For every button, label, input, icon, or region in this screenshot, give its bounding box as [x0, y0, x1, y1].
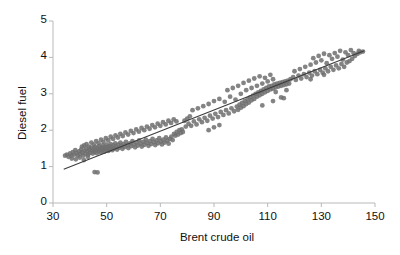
scatter-point [216, 115, 221, 120]
scatter-point [241, 80, 246, 85]
scatter-point [326, 69, 331, 74]
scatter-point [174, 119, 179, 124]
scatter-point [271, 99, 276, 104]
scatter-point [228, 94, 233, 99]
x-tick-marks [53, 203, 375, 207]
scatter-point [189, 123, 194, 128]
scatter-point [95, 170, 100, 175]
scatter-point [342, 64, 347, 69]
scatter-point [260, 81, 265, 86]
scatter-point [322, 51, 327, 56]
scatter-point [187, 114, 192, 119]
scatter-point [226, 111, 231, 116]
x-tick-label: 130 [306, 210, 336, 222]
chart-figure: 012345 30507090110130150 Diesel fuel Bre… [0, 0, 400, 255]
scatter-point [221, 113, 226, 118]
scatter-point [249, 86, 254, 91]
scatter-point [327, 53, 332, 58]
y-axis-title: Diesel fuel [16, 86, 28, 140]
scatter-point [332, 51, 337, 56]
scatter-point [292, 69, 297, 74]
scatter-point [281, 96, 286, 101]
scatter-point [257, 74, 262, 79]
scatter-point [196, 106, 201, 111]
y-tick-label: 1 [27, 159, 47, 171]
x-axis-title: Brent crude oil [0, 231, 400, 243]
scatter-point [200, 120, 205, 125]
scatter-point [284, 88, 289, 93]
scatter-point [348, 48, 353, 53]
scatter-point [77, 155, 82, 160]
scatter-point [319, 58, 324, 63]
scatter-point [201, 104, 206, 109]
scatter-point [304, 75, 309, 80]
scatter-point [303, 64, 308, 69]
y-tick-label: 4 [27, 49, 47, 61]
scatter-point [336, 66, 341, 71]
scatter-point [271, 77, 276, 82]
scatter-point [308, 77, 313, 82]
scatter-point [260, 103, 265, 108]
y-tick-label: 0 [27, 195, 47, 207]
scatter-point [246, 78, 251, 83]
regression-trendline [64, 51, 365, 169]
scatter-point [331, 67, 336, 72]
scatter-point [268, 72, 273, 77]
scatter-point [225, 88, 230, 93]
scatter-point [287, 81, 292, 86]
x-tick-label: 70 [145, 210, 175, 222]
x-tick-label: 150 [360, 210, 390, 222]
scatter-point [206, 128, 211, 133]
scatter-point [322, 72, 327, 77]
scatter-point [263, 75, 268, 80]
scatter-point [338, 48, 343, 53]
scatter-point [210, 116, 215, 121]
scatter-point [166, 141, 171, 146]
x-tick-label: 110 [253, 210, 283, 222]
scatter-point [190, 108, 195, 113]
scatter-point [315, 72, 320, 77]
scatter-point [297, 67, 302, 72]
scatter-point [314, 60, 319, 65]
y-tick-marks [49, 21, 53, 203]
y-tick-label: 2 [27, 122, 47, 134]
scatter-point [217, 97, 222, 102]
scatter-point [69, 156, 74, 161]
scatter-point [212, 99, 217, 104]
scatter-point [308, 62, 313, 67]
x-tick-label: 90 [199, 210, 229, 222]
scatter-point [205, 118, 210, 123]
scatter-point [343, 50, 348, 55]
scatter-point [230, 86, 235, 91]
scatter-point [273, 90, 278, 95]
scatter-point [222, 99, 227, 104]
scatter-point [180, 130, 185, 135]
scatter-point [244, 88, 249, 93]
scatter-point [87, 144, 92, 149]
y-tick-label: 3 [27, 86, 47, 98]
scatter-point [316, 54, 321, 59]
scatter-point [236, 83, 241, 88]
y-tick-label: 5 [27, 13, 47, 25]
x-tick-label: 30 [38, 210, 68, 222]
scatter-point [252, 76, 257, 81]
scatter-point [212, 125, 217, 130]
data-points [63, 48, 366, 175]
scatter-point [238, 91, 243, 96]
x-tick-label: 50 [92, 210, 122, 222]
scatter-point [206, 102, 211, 107]
scatter-point [217, 123, 222, 128]
scatter-point [255, 83, 260, 88]
scatter-point [194, 122, 199, 127]
scatter-point [311, 56, 316, 61]
scatter-point [170, 138, 175, 143]
